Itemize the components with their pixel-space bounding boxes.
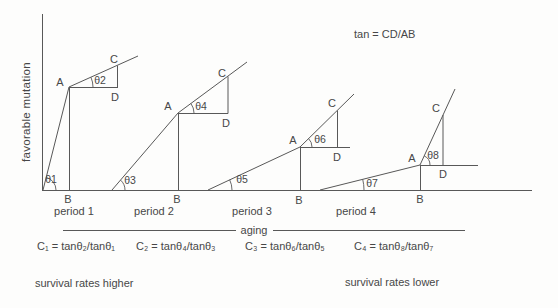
theta8-label: θ8 (427, 149, 439, 161)
period-2-label: period 2 (134, 205, 174, 217)
theta5-label: θ5 (236, 173, 248, 185)
x-axis-label: aging (241, 224, 268, 236)
theta6-label: θ6 (314, 133, 326, 145)
tan-definition-note: tan = CD/AB (354, 28, 415, 40)
figure-canvas: favorable mutation tan = CD/AB θ1 θ2 A B… (0, 0, 558, 308)
period-2-theta4-arc (191, 104, 194, 114)
diagram-svg: favorable mutation tan = CD/AB θ1 θ2 A B… (0, 0, 558, 308)
period-2-rise-line (112, 113, 178, 190)
period-1-group: θ1 θ2 A B C D period 1 (43, 53, 138, 217)
period-1-point-c: C (110, 53, 118, 65)
period-3-theta6-arc (309, 139, 312, 147)
period-1-point-d: D (111, 91, 119, 103)
period-3-theta5-arc (230, 180, 232, 190)
period-3-apex-line (300, 94, 354, 147)
period-1-label: period 1 (54, 205, 94, 217)
coefficient-formulas: C₁ = tanθ₂/tanθ₁ C₂ = tanθ₄/tanθ₃ C₃ = t… (37, 240, 433, 252)
period-3-label: period 3 (232, 205, 272, 217)
period-2-group: θ3 θ4 A B C D period 2 (112, 62, 247, 217)
period-4-point-a: A (408, 152, 416, 164)
theta2-label: θ2 (94, 74, 106, 86)
period-2-point-b: B (173, 193, 180, 205)
period-1-point-a: A (56, 76, 64, 88)
period-4-theta7-arc (363, 179, 364, 190)
period-3-point-a: A (289, 134, 297, 146)
period-1-point-b: B (64, 193, 71, 205)
period-4-point-c: C (432, 102, 440, 114)
period-1-theta2-arc (91, 77, 93, 87)
y-axis-label: favorable mutation (20, 62, 32, 162)
period-2-point-d: D (222, 117, 230, 129)
period-3-group: θ5 θ6 A B C D period 3 (208, 94, 354, 217)
period-3-point-c: C (328, 97, 336, 109)
aging-axis-group: aging (63, 224, 465, 236)
period-2-point-a: A (164, 100, 172, 112)
theta3-label: θ3 (124, 174, 136, 186)
period-4-point-d: D (439, 168, 447, 180)
period-3-rise-line (208, 147, 300, 190)
survival-note-left: survival rates higher (35, 277, 134, 289)
period-4-group: θ7 θ8 A B C D period 4 (320, 89, 478, 217)
period-4-label: period 4 (336, 205, 376, 217)
theta4-label: θ4 (195, 100, 207, 112)
coefficient-c4: C₄ = tanθ₈/tanθ₇ (354, 240, 433, 252)
survival-note-right: survival rates lower (345, 276, 439, 288)
coefficient-c2: C₂ = tanθ₄/tanθ₃ (136, 240, 216, 252)
period-2-apex-line (178, 62, 247, 113)
period-2-point-c: C (218, 67, 226, 79)
coefficient-c3: C₃ = tanθ₆/tanθ₅ (245, 240, 325, 252)
theta1-label: θ1 (45, 173, 57, 185)
theta7-label: θ7 (366, 177, 378, 189)
period-3-point-d: D (333, 151, 341, 163)
coefficient-c1: C₁ = tanθ₂/tanθ₁ (37, 240, 115, 252)
period-3-point-b: B (295, 194, 302, 206)
period-4-point-b: B (416, 193, 423, 205)
